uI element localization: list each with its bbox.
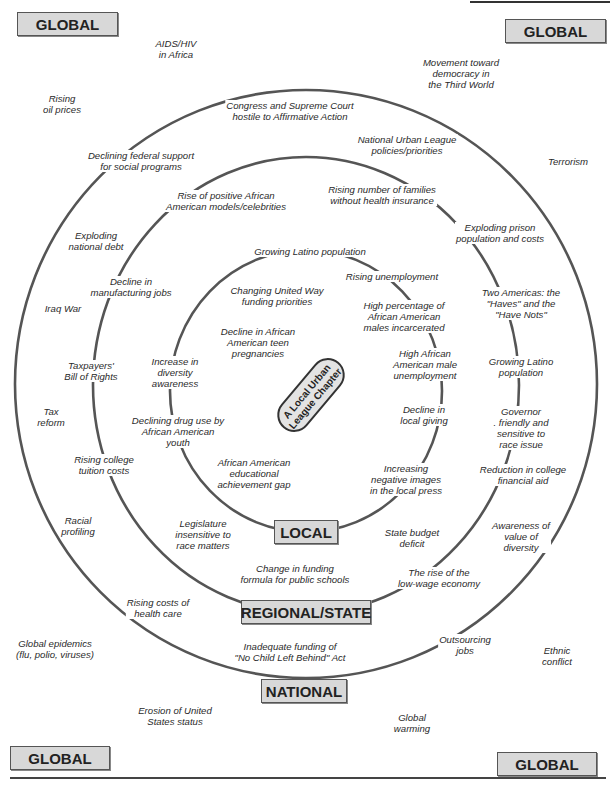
factor-national: Outsourcing jobs [438,634,492,656]
factor-regional: Change in funding formula for public sch… [240,563,351,585]
factor-regional: Rise of positive African American models… [165,190,287,212]
factor-national: Exploding national debt [68,230,125,252]
local-label-box: LOCAL [274,520,338,544]
factor-regional: Reduction in college financial aid [479,464,567,486]
factor-regional: Two Americas: the "Haves" and the "Have … [481,287,561,320]
factor-national: National Urban League policies/prioritie… [357,134,458,156]
factor-global: Global epidemics (flu, polio, viruses) [15,638,95,660]
factor-national: Tax reform [36,406,66,428]
factor-local: Changing United Way funding priorities [229,285,324,307]
factor-regional: The rise of the low-wage economy [397,567,481,589]
factor-regional: State budget deficit [384,527,440,549]
global-box-top-left: GLOBAL [17,12,118,36]
factor-local: Decline in local giving [399,404,448,426]
regional-state-label-box: REGIONAL/STATE [241,600,371,624]
factor-national: Racial profiling [60,515,96,537]
factor-global: Terrorism [547,156,589,167]
factor-local: Increasing negative images in the local … [369,463,443,496]
factor-regional: Decline in manufacturing jobs [89,276,172,298]
factor-local: Decline in African American teen pregnan… [220,326,296,359]
factor-regional: Rising number of families without health… [327,184,437,206]
factor-regional: Rising college tuition costs [73,454,135,476]
factor-national: Iraq War [44,303,83,314]
factor-global: AIDS/HIV in Africa [154,38,197,60]
global-box-bottom-left: GLOBAL [10,746,110,770]
factor-national: Rising costs of health care [126,597,190,619]
factor-regional: Taxpayers' Bill of Rights [63,360,118,382]
factor-national: Congress and Supreme Court hostile to Af… [225,100,354,122]
factor-national: Inadequate funding of "No Child Left Beh… [234,641,347,663]
factor-regional: Growing Latino population [488,356,555,378]
national-label-box: NATIONAL [261,679,347,703]
factor-local: Increase in diversity awareness [151,356,200,389]
factor-local: High African American male unemployment [392,348,458,381]
factor-national: Declining federal support for social pro… [87,150,195,172]
factor-local: High percentage of African American male… [362,300,445,333]
factor-national: Awareness of value of diversity [491,520,551,553]
factor-regional: Exploding prison population and costs [455,222,545,244]
factor-global: Rising oil prices [42,93,82,115]
global-box-top-right: GLOBAL [505,19,606,43]
factor-local: Declining drug use by African American y… [131,415,225,448]
global-box-bottom-right: GLOBAL [497,752,597,776]
factor-global: Ethnic conflict [541,645,573,667]
factor-global: Global warming [393,712,431,734]
factor-global: Movement toward democracy in the Third W… [422,57,500,90]
factor-global: Erosion of United States status [137,705,213,727]
factor-local: Growing Latino population [253,246,366,257]
factor-local: African American educational achievement… [216,457,291,490]
factor-local: Rising unemployment [345,271,439,282]
bottom-rule [10,777,606,779]
factor-regional: Governor . friendly and sensitive to rac… [493,406,550,450]
factor-regional: Legislature insensitive to race matters [174,518,231,551]
